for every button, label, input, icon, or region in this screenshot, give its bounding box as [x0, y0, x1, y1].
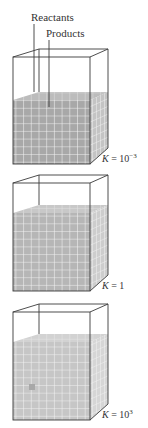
container-k-1: K = 1	[13, 175, 124, 291]
k-value-label: K = 1	[101, 280, 124, 291]
container-k-1e-3: Reactants Products K = 10−3	[13, 11, 137, 164]
equilibrium-diagram: Reactants Products K = 10−3 K = 1	[0, 0, 148, 428]
k-value-label: K = 103	[101, 408, 133, 420]
reactants-label: Reactants	[31, 11, 74, 23]
container-k-1e3: K = 103	[13, 304, 133, 420]
k-value-label: K = 10−3	[101, 152, 137, 164]
reactant-cell	[29, 384, 35, 390]
products-label: Products	[46, 27, 85, 39]
